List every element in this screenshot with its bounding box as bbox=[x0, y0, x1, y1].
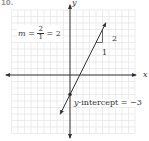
slope-result: = 2 bbox=[46, 29, 60, 38]
y-intercept-point bbox=[68, 93, 72, 97]
x-axis-label: x bbox=[143, 71, 148, 79]
slope-annotation: m = 2 1 = 2 bbox=[17, 25, 62, 42]
graph-figure: 10. y x m = 2 1 = 2 2 1 y-intercept = −3 bbox=[0, 0, 149, 141]
slope-denominator: 1 bbox=[37, 34, 43, 41]
figure-number: 10. bbox=[1, 0, 13, 7]
y-intercept-annotation: y-intercept = −3 bbox=[73, 99, 143, 107]
coordinate-plane bbox=[0, 0, 149, 141]
y-axis-label: y bbox=[72, 0, 77, 7]
slope-fraction: 2 1 bbox=[37, 26, 43, 41]
run-label: 1 bbox=[102, 49, 107, 57]
slope-prefix: m = bbox=[18, 29, 35, 38]
rise-label: 2 bbox=[112, 35, 117, 43]
y-intercept-text: -intercept = −3 bbox=[79, 98, 142, 107]
